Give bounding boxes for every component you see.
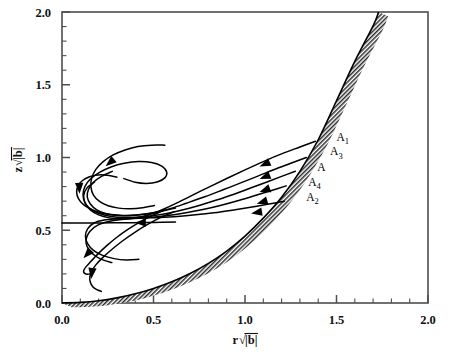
x-tick-label: 1.0: [237, 313, 253, 327]
x-axis-title-var: r: [233, 333, 239, 347]
y-axis-title: z√|b|: [11, 147, 25, 172]
x-tick-label: 2.0: [420, 313, 436, 327]
arrowhead-A2: [250, 207, 262, 217]
y-tick-label: 2.0: [35, 6, 51, 20]
y-axis-tick-labels: 0.00.51.01.52.0: [35, 6, 51, 311]
arrowhead-horizontal-inflow: [135, 218, 146, 227]
x-tick-label: 1.5: [329, 313, 345, 327]
svg-text:z√|b|: z√|b|: [11, 148, 25, 173]
y-tick-label: 0.5: [35, 224, 51, 238]
curve-label-A: A: [317, 161, 326, 173]
x-axis-title-arg: |b|: [245, 333, 257, 347]
y-tick-label: 0.0: [35, 297, 51, 311]
svg-text:r√|b|: r√|b|: [233, 333, 258, 347]
y-axis-title-arg: |b|: [11, 148, 25, 160]
plot-canvas: 0.00.51.01.52.0 0.00.51.01.52.0 A1A3AA4A…: [0, 0, 452, 357]
phase-portrait-figure: 0.00.51.01.52.0 0.00.51.01.52.0 A1A3AA4A…: [0, 0, 452, 357]
y-axis-title-var: z: [11, 166, 25, 172]
x-tick-label: 0.0: [54, 313, 70, 327]
trajectory-horizontal-inflow: [62, 222, 175, 223]
y-tick-label: 1.5: [35, 78, 51, 92]
x-tick-label: 0.5: [146, 313, 162, 327]
curve-label-A1: A1: [337, 131, 350, 146]
curve-label-A2: A2: [306, 191, 319, 206]
x-axis-tick-labels: 0.00.51.01.52.0: [54, 313, 436, 327]
arrowhead-A1: [258, 158, 271, 170]
curve-label-A3: A3: [330, 145, 343, 160]
curve-label-A4: A4: [308, 176, 321, 191]
x-axis-title: r√|b|: [233, 333, 258, 347]
y-tick-label: 1.0: [35, 151, 51, 165]
